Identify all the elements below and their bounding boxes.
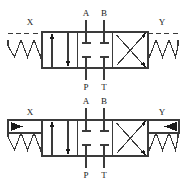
bottom-label-t: T: [101, 170, 107, 180]
top-valve-diagram: X Y A B P T: [0, 0, 185, 93]
bottom-position-right-crossed: [117, 120, 147, 155]
right-pilot-triangle-icon: [164, 122, 177, 131]
bottom-valve-diagram: X Y A B P T: [0, 93, 185, 186]
top-position-center-closed: [82, 32, 109, 68]
bottom-valve-envelope: [42, 120, 148, 156]
bottom-position-center-closed: [82, 120, 109, 156]
top-position-left-parallel: [50, 33, 71, 67]
top-label-b: B: [101, 8, 107, 18]
right-spring-icon: [148, 133, 178, 150]
bottom-port-stems: [86, 108, 104, 168]
top-valve-svg: X Y A B P T: [0, 0, 185, 93]
top-label-a: A: [83, 8, 90, 18]
bottom-label-p: P: [83, 170, 88, 180]
left-spring-icon: [8, 133, 42, 150]
top-left-pilot-group: [8, 34, 42, 58]
bottom-left-pilot-group: [8, 120, 42, 150]
top-position-right-crossed: [117, 32, 147, 67]
top-label-x: X: [27, 17, 34, 27]
bottom-valve-svg: X Y A B P T: [0, 93, 185, 186]
top-label-y: Y: [159, 17, 166, 27]
left-spring-icon: [8, 40, 42, 57]
bottom-label-x: X: [27, 107, 34, 117]
top-label-t: T: [101, 82, 107, 92]
top-label-p: P: [83, 82, 88, 92]
bottom-label-a: A: [83, 96, 90, 106]
bottom-label-y: Y: [159, 107, 166, 117]
bottom-label-b: B: [101, 96, 107, 106]
top-right-pilot-group: [148, 34, 179, 58]
top-port-stems: [86, 20, 104, 80]
bottom-position-left-parallel: [50, 121, 71, 155]
top-valve-envelope: [42, 32, 148, 68]
left-pilot-triangle-icon: [11, 122, 24, 131]
valve-symbol-figure: X Y A B P T: [0, 0, 185, 186]
right-spring-icon: [148, 40, 178, 57]
bottom-right-pilot-group: [148, 120, 179, 150]
